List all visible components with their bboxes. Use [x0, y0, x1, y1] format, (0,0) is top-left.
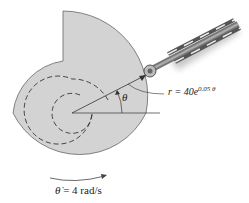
- roller-pin: [148, 69, 153, 74]
- theta-label: θ: [122, 91, 127, 103]
- follower-rod: [150, 20, 240, 70]
- rotation-arrowhead: [101, 174, 107, 179]
- angular-velocity-label: θ̇ = 4 rad/s: [55, 184, 102, 196]
- radius-equation: r = 40e0.05 θ: [168, 85, 216, 97]
- rotation-arrow: [50, 176, 105, 181]
